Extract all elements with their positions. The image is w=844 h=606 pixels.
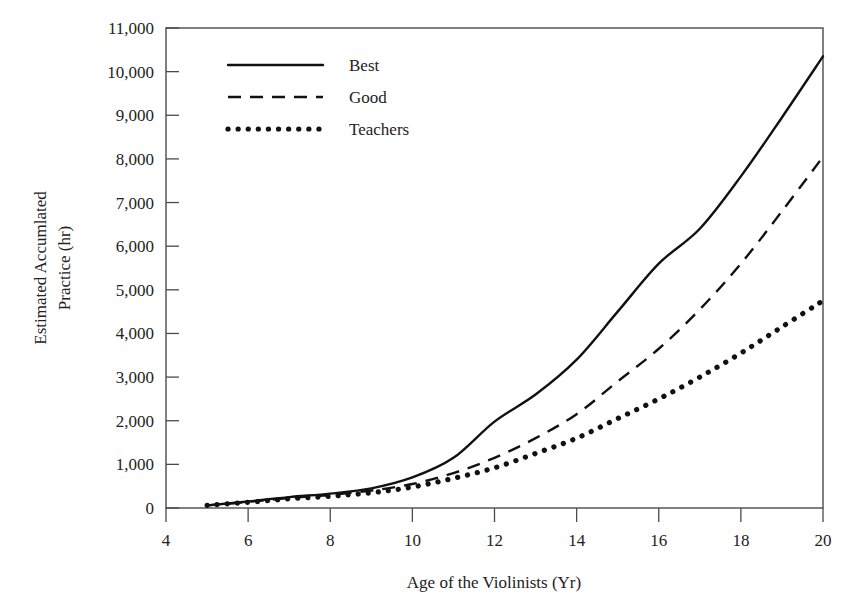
y-tick-label: 7,000 xyxy=(116,194,154,213)
x-tick-label: 18 xyxy=(732,531,749,550)
x-tick-label: 16 xyxy=(650,531,667,550)
y-tick-label: 0 xyxy=(146,499,155,518)
y-tick-label: 9,000 xyxy=(116,106,154,125)
legend-label-teachers: Teachers xyxy=(349,120,409,139)
chart-background xyxy=(0,0,844,606)
y-tick-label: 2,000 xyxy=(116,412,154,431)
x-tick-label: 8 xyxy=(326,531,335,550)
x-tick-label: 4 xyxy=(162,531,171,550)
violin-practice-chart-figure: 01,0002,0003,0004,0005,0006,0007,0008,00… xyxy=(0,0,844,606)
chart-canvas: 01,0002,0003,0004,0005,0006,0007,0008,00… xyxy=(0,0,844,606)
y-tick-label: 11,000 xyxy=(108,19,154,38)
x-tick-label: 12 xyxy=(486,531,503,550)
y-tick-label: 6,000 xyxy=(116,237,154,256)
y-axis-title-line1: Estimated Accumlated xyxy=(31,191,50,345)
y-tick-label: 3,000 xyxy=(116,368,154,387)
x-tick-label: 14 xyxy=(568,531,586,550)
x-tick-label: 10 xyxy=(404,531,421,550)
legend-label-best: Best xyxy=(349,56,380,75)
x-axis-title: Age of the Violinists (Yr) xyxy=(407,573,581,592)
x-tick-label: 6 xyxy=(244,531,253,550)
y-tick-label: 4,000 xyxy=(116,324,154,343)
legend-label-good: Good xyxy=(349,88,387,107)
y-tick-label: 10,000 xyxy=(107,63,154,82)
y-tick-label: 8,000 xyxy=(116,150,154,169)
y-tick-label: 5,000 xyxy=(116,281,154,300)
x-tick-label: 20 xyxy=(815,531,832,550)
y-axis-title-line2: Practice (hr) xyxy=(55,226,74,310)
y-tick-label: 1,000 xyxy=(116,455,154,474)
